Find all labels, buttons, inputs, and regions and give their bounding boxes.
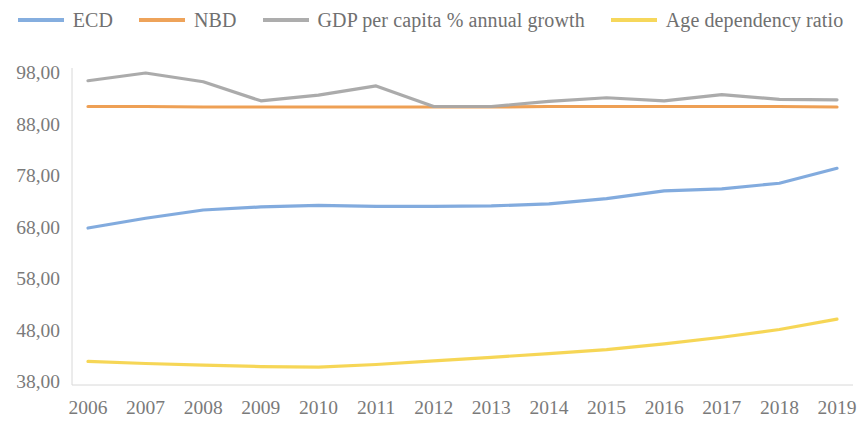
legend-swatch-icon — [18, 18, 64, 22]
legend-swatch-icon — [139, 18, 185, 22]
x-axis-tick-label: 2015 — [587, 397, 626, 418]
legend-label: GDP per capita % annual growth — [318, 10, 585, 30]
x-axis-tick-label: 2016 — [645, 397, 684, 418]
y-axis-tick-label: 98,00 — [16, 62, 60, 83]
x-axis-tick-label: 2011 — [357, 397, 395, 418]
legend-label: ECD — [73, 10, 113, 30]
x-axis-tick-label: 2007 — [126, 397, 165, 418]
x-axis-tick-label: 2009 — [241, 397, 280, 418]
x-axis-tick-label: 2019 — [818, 397, 857, 418]
x-axis-tick-label: 2013 — [472, 397, 511, 418]
x-axis-tick-label: 2010 — [299, 397, 338, 418]
legend-label: Age dependency ratio — [666, 10, 843, 30]
y-axis-tick-label: 48,00 — [16, 320, 60, 341]
y-axis-tick-label: 88,00 — [16, 114, 60, 135]
x-axis-tick-label: 2018 — [760, 397, 799, 418]
y-axis-tick-label: 68,00 — [16, 217, 60, 238]
y-axis-tick-label: 58,00 — [16, 268, 60, 289]
legend-swatch-icon — [263, 18, 309, 22]
legend-item-age-dependency-ratio[interactable]: Age dependency ratio — [611, 10, 843, 30]
chart-container: ECDNBDGDP per capita % annual growthAge … — [0, 0, 861, 421]
x-axis-tick-label: 2017 — [702, 397, 741, 418]
x-axis-tick-label: 2006 — [69, 397, 108, 418]
x-axis-tick-label: 2014 — [529, 397, 568, 418]
y-axis-tick-label: 38,00 — [16, 371, 60, 392]
plot-area: 38,0048,0058,0068,0078,0088,0098,0020062… — [0, 34, 861, 421]
legend-label: NBD — [194, 10, 237, 30]
legend-swatch-icon — [611, 18, 657, 22]
x-axis-tick-label: 2012 — [414, 397, 453, 418]
series-line-ecd — [88, 168, 837, 228]
y-axis-tick-label: 78,00 — [16, 165, 60, 186]
series-line-gdp-per-capita-annual-growth — [88, 73, 837, 106]
legend-item-nbd[interactable]: NBD — [139, 10, 237, 30]
chart-legend: ECDNBDGDP per capita % annual growthAge … — [0, 6, 861, 34]
legend-item-ecd[interactable]: ECD — [18, 10, 113, 30]
x-axis-tick-label: 2008 — [184, 397, 223, 418]
line-chart-svg: 38,0048,0058,0068,0078,0088,0098,0020062… — [0, 34, 861, 421]
series-line-age-dependency-ratio — [88, 319, 837, 367]
legend-item-gdp-per-capita-annual-growth[interactable]: GDP per capita % annual growth — [263, 10, 585, 30]
